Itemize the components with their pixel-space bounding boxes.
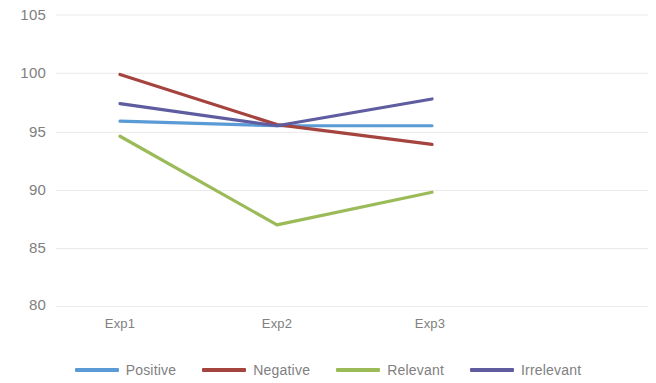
x-axis-tick-exp3: Exp3: [385, 316, 475, 331]
legend-swatch-irrelevant-icon: [470, 368, 514, 372]
legend-swatch-positive-icon: [75, 368, 119, 372]
data-series-layer: [120, 74, 432, 224]
legend-label-relevant: Relevant: [387, 362, 444, 378]
chart-legend: Positive Negative Relevant Irrelevant: [0, 358, 656, 382]
legend-label-irrelevant: Irrelevant: [521, 362, 581, 378]
legend-item-positive[interactable]: Positive: [75, 362, 177, 378]
series-line-relevant: [120, 136, 432, 225]
legend-swatch-relevant-icon: [336, 368, 380, 372]
legend-swatch-negative-icon: [202, 368, 246, 372]
line-chart: 105 100 95 90 85 80 Exp1 Exp2 Exp3 Posit…: [0, 0, 656, 383]
legend-label-negative: Negative: [253, 362, 310, 378]
legend-item-negative[interactable]: Negative: [202, 362, 310, 378]
gridlines: [56, 15, 648, 307]
legend-item-irrelevant[interactable]: Irrelevant: [470, 362, 581, 378]
x-axis-tick-exp1: Exp1: [75, 316, 165, 331]
x-axis-tick-exp2: Exp2: [232, 316, 322, 331]
legend-label-positive: Positive: [126, 362, 177, 378]
legend-item-relevant[interactable]: Relevant: [336, 362, 444, 378]
